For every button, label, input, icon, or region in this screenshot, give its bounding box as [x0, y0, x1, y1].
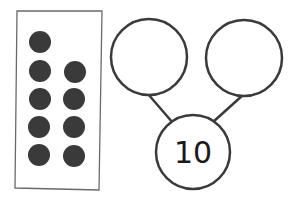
counter-dot [29, 31, 51, 53]
counter-dot [63, 88, 85, 110]
bond-connector-left [148, 94, 173, 123]
counter-dot [29, 60, 51, 82]
bond-connector-right [213, 95, 243, 122]
counter-dot [28, 144, 50, 166]
whole-value: 10 [174, 135, 212, 170]
ten-frame-card [15, 11, 102, 190]
part-circle-right[interactable] [206, 20, 282, 96]
counter-dot [64, 61, 86, 83]
counter-dot [63, 116, 85, 138]
number-bond-worksheet: 10 [0, 0, 298, 201]
counter-dot [29, 88, 51, 110]
part-circle-left[interactable] [111, 19, 187, 95]
counter-dot [63, 145, 85, 167]
counter-dot [28, 116, 50, 138]
